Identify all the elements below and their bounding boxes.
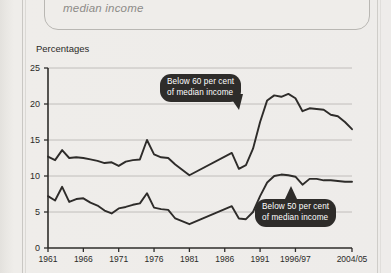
series-line-below-60	[48, 94, 352, 175]
y-tick-label-10: 10	[18, 171, 40, 181]
line-chart	[0, 0, 391, 273]
callout-below-60: Below 60 per cent of median income	[160, 74, 241, 102]
y-tick-label-5: 5	[18, 207, 40, 217]
callout-below-60-line1: Below 60 per cent	[167, 77, 234, 88]
callout-below-50-line1: Below 50 per cent	[262, 202, 329, 213]
callout-below-50: Below 50 per cent of median income	[255, 199, 336, 227]
callout-below-50-line2: of median income	[262, 213, 329, 224]
callout-below-50-tail	[285, 186, 297, 199]
y-tick-label-15: 15	[18, 135, 40, 145]
callout-below-60-line2: of median income	[167, 88, 234, 99]
x-tick-label-1996-97: 1996/97	[270, 254, 320, 264]
y-tick-label-20: 20	[18, 99, 40, 109]
y-tick-label-25: 25	[18, 63, 40, 73]
page-background: median income Percentages 25201510501961…	[0, 0, 391, 273]
x-tick-label-2004-05: 2004/05	[327, 254, 377, 264]
y-tick-label-0: 0	[18, 243, 40, 253]
